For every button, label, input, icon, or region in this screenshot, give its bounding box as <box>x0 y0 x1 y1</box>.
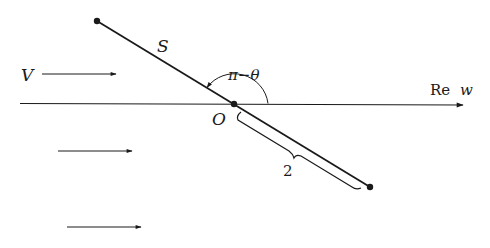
flow-label: V <box>21 65 35 85</box>
length-brace <box>237 112 361 189</box>
diagram-canvas: V S π−θ O Re w 2 <box>0 0 490 248</box>
real-axis <box>20 104 463 106</box>
plate-endpoint-top <box>94 18 100 24</box>
angle-label: π−θ <box>227 66 259 84</box>
axis-label-var: w <box>460 81 473 99</box>
axis-label-re: Re <box>430 81 450 99</box>
length-label: 2 <box>283 162 293 180</box>
plate-label: S <box>157 36 169 56</box>
origin-point <box>231 101 237 107</box>
origin-label: O <box>212 109 226 129</box>
plate-endpoint-bottom <box>367 184 373 190</box>
